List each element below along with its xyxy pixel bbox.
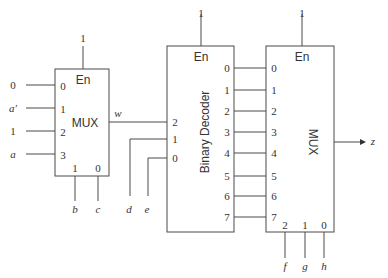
mux2-enable-value: 1 <box>299 7 305 19</box>
decoder-output-pin-7: 7 <box>224 211 230 223</box>
mux1-enable-value: 1 <box>80 32 86 44</box>
mux1-select-pin-0: 0 <box>95 162 101 174</box>
decoder-output-pin-0: 0 <box>224 62 230 74</box>
mux2-select-signal-f: f <box>283 260 288 272</box>
mux2-input-pin-6: 6 <box>271 190 277 202</box>
decoder-output-pin-6: 6 <box>224 190 230 202</box>
mux2-input-pin-3: 3 <box>271 126 277 138</box>
decoder-enable-value: 1 <box>198 7 204 19</box>
decoder-enable-label: En <box>194 50 209 64</box>
mux2-select-signal-g: g <box>302 260 308 272</box>
mux2-enable-label: En <box>295 50 310 64</box>
mux1-input-pin-1: 1 <box>60 103 66 115</box>
mux1-input-signal-0: 0 <box>10 79 16 91</box>
decoder-input-pin-2: 2 <box>172 116 178 128</box>
decoder-input-pin-1: 1 <box>172 133 178 145</box>
mux1-output-signal: w <box>114 107 122 119</box>
mux2-input-pin-2: 2 <box>271 105 277 117</box>
arrow-right-icon <box>360 139 366 145</box>
mux1-input-signal-3: a <box>10 148 16 160</box>
mux1-input-pin-0: 0 <box>60 80 66 92</box>
decoder-output-pin-2: 2 <box>224 105 230 117</box>
mux2-input-pin-7: 7 <box>271 211 277 223</box>
e-wire <box>148 158 167 196</box>
decoder-block: 1 En Binary Decoder 2 1 0 d e 0 1 2 3 4 … <box>126 7 234 232</box>
mux2-select-pin-1: 1 <box>302 219 308 231</box>
mux2-select-pin-0: 0 <box>321 219 327 231</box>
mux2-input-pin-1: 1 <box>271 84 277 96</box>
mux2-input-pin-4: 4 <box>271 147 277 159</box>
mux2-title: MUX <box>306 129 320 156</box>
mux1-select-signal-b: b <box>72 203 78 215</box>
mux1-input-signal-2: 1 <box>10 125 16 137</box>
decoder-output-pin-3: 3 <box>224 126 230 138</box>
mux2-input-pin-5: 5 <box>271 170 277 182</box>
mux1-title: MUX <box>72 116 99 130</box>
decoder-title: Binary Decoder <box>198 91 212 174</box>
decoder-input-pin-0: 0 <box>172 152 178 164</box>
decoder-output-pin-4: 4 <box>224 147 230 159</box>
decoder-input-signal-e: e <box>145 203 150 215</box>
mux2-block: 1 En MUX 0 1 2 3 4 5 6 7 2 1 0 f g h z <box>266 7 376 272</box>
mux1-select-signal-c: c <box>96 203 101 215</box>
mux2-select-pin-2: 2 <box>282 219 288 231</box>
mux1-input-pin-2: 2 <box>60 126 66 138</box>
mux2-input-pin-0: 0 <box>271 62 277 74</box>
logic-circuit-diagram: 1 En MUX 0 a' 1 a 0 1 2 3 1 0 b c w 1 En… <box>0 0 388 278</box>
decoder-input-signal-d: d <box>126 203 132 215</box>
mux1-input-pin-3: 3 <box>60 149 66 161</box>
decoder-output-pin-1: 1 <box>224 84 230 96</box>
mux1-block: 1 En MUX 0 a' 1 a 0 1 2 3 1 0 b c w <box>9 32 167 215</box>
decoder-output-pin-5: 5 <box>224 170 230 182</box>
decoder-to-mux2-wires <box>234 68 266 217</box>
mux1-select-pin-1: 1 <box>72 162 78 174</box>
mux1-input-signal-1: a' <box>9 102 18 114</box>
mux2-select-signal-h: h <box>321 260 327 272</box>
mux1-enable-label: En <box>76 73 91 87</box>
mux2-output-signal: z <box>370 135 376 147</box>
